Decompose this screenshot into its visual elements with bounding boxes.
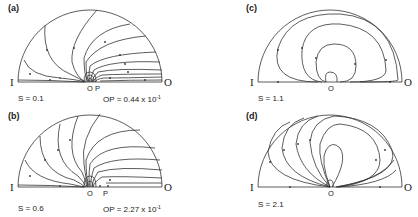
panel-label-b: (b) xyxy=(8,112,20,121)
panel-label-d: (d) xyxy=(246,112,258,121)
s-value-d: S = 2.1 xyxy=(258,201,284,209)
s-value-c: S = 1.1 xyxy=(258,95,284,103)
streamline-figure xyxy=(0,0,418,217)
op-value-b: OP = 2.27 x 10-1 xyxy=(103,205,161,214)
op-value-b-base: OP = 2.27 x 10 xyxy=(103,205,156,214)
panel-b-diagram xyxy=(18,114,162,187)
endpoint-i-b: I xyxy=(10,182,14,193)
endpoint-i-c: I xyxy=(250,77,254,88)
endpoint-i-a: I xyxy=(10,77,14,88)
endpoint-o-c: O xyxy=(404,77,412,88)
endpoint-i-d: I xyxy=(250,182,254,193)
endpoint-o-a: O xyxy=(164,77,172,88)
panel-label-a: (a) xyxy=(8,4,19,13)
point-p-a: P xyxy=(95,85,100,93)
panel-d-diagram xyxy=(258,115,402,188)
point-o-d: O xyxy=(328,190,334,198)
point-o-b: O xyxy=(87,190,93,198)
op-value-a: OP = 0.44 x 10-1 xyxy=(103,95,161,104)
panel-a-diagram xyxy=(18,10,162,82)
point-p-b: P xyxy=(103,190,108,198)
s-value-b: S = 0.6 xyxy=(18,205,44,213)
op-value-a-base: OP = 0.44 x 10 xyxy=(103,95,156,104)
panel-label-c: (c) xyxy=(246,4,257,13)
point-o-c: O xyxy=(328,85,334,93)
endpoint-o-d: O xyxy=(404,182,412,193)
op-value-a-exponent: -1 xyxy=(156,94,160,100)
point-o-a: O xyxy=(87,85,93,93)
panel-c-diagram xyxy=(258,10,402,83)
endpoint-o-b: O xyxy=(164,182,172,193)
s-value-a: S = 0.1 xyxy=(18,95,44,103)
op-value-b-exponent: -1 xyxy=(156,204,160,210)
